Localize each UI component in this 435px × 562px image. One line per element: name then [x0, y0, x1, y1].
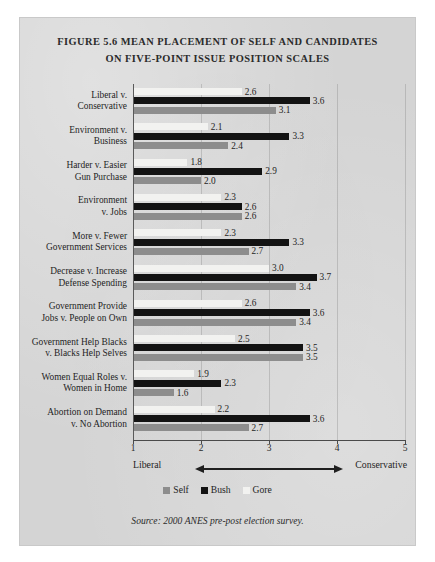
bar-value-label: 3.4: [299, 283, 311, 292]
legend-swatch-bush: [201, 487, 208, 494]
legend-item-gore: Gore: [243, 484, 272, 495]
bar-bush: [134, 168, 262, 175]
bar-group: Harder v. EasierGun Purchase1.82.92.0: [20, 159, 415, 194]
bar-value-label: 3.7: [320, 273, 332, 282]
bar-value-label: 3.3: [292, 132, 304, 141]
bar-value-label: 2.5: [238, 335, 250, 344]
axis-direction-row: Liberal Conservative: [133, 458, 405, 474]
bar-self: [134, 389, 174, 396]
bar-value-label: 2.4: [231, 142, 243, 151]
bar-gore: [134, 335, 235, 342]
bar-bush: [134, 415, 310, 422]
bar-self: [134, 354, 303, 361]
bar-value-label: 2.6: [245, 88, 257, 97]
category-label: Harder v. EasierGun Purchase: [0, 160, 127, 183]
bar-value-label: 2.7: [252, 424, 264, 433]
bar-group: More v. FewerGovernment Services2.33.32.…: [20, 229, 415, 264]
figure-panel: FIGURE 5.6 MEAN PLACEMENT OF SELF AND CA…: [20, 18, 415, 545]
bar-group: Environmentv. Jobs2.32.62.6: [20, 194, 415, 229]
double-headed-arrow-icon: [195, 465, 343, 474]
bar-value-label: 1.9: [197, 370, 209, 379]
bar-value-label: 2.9: [265, 167, 277, 176]
axis-pole-left: Liberal: [133, 459, 161, 470]
bar-gore: [134, 406, 215, 413]
bar-self: [134, 142, 228, 149]
legend-label: Bush: [211, 484, 231, 495]
bar-gore: [134, 370, 194, 377]
bar-gore: [134, 300, 242, 307]
bar-self: [134, 424, 249, 431]
bar-self: [134, 107, 276, 114]
bar-gore: [134, 194, 221, 201]
bar-bush: [134, 274, 317, 281]
bar-gore: [134, 265, 269, 272]
bar-self: [134, 213, 242, 220]
bar-bush: [134, 380, 221, 387]
legend-label: Gore: [253, 484, 272, 495]
bar-group: Decrease v. IncreaseDefense Spending3.03…: [20, 265, 415, 300]
bar-value-label: 1.8: [190, 158, 202, 167]
bar-value-label: 3.1: [279, 106, 291, 115]
x-axis-tick-label: 5: [395, 443, 415, 453]
x-axis-tick-label: 3: [259, 443, 279, 453]
bar-gore: [134, 159, 187, 166]
bar-gore: [134, 123, 208, 130]
x-axis-tick-label: 2: [191, 443, 211, 453]
bar-value-label: 3.6: [313, 309, 325, 318]
bar-gore: [134, 88, 242, 95]
bar-value-label: 3.4: [299, 318, 311, 327]
bar-value-label: 2.0: [204, 177, 216, 186]
bar-group: Environment v.Business2.13.32.4: [20, 123, 415, 158]
category-label: Government ProvideJobs v. People on Own: [0, 301, 127, 324]
x-axis-tick-label: 4: [327, 443, 347, 453]
bar-bush: [134, 239, 289, 246]
bar-self: [134, 248, 249, 255]
bar-value-label: 2.2: [218, 405, 230, 414]
bar-group: Liberal v.Conservative2.63.63.1: [20, 88, 415, 123]
bar-bush: [134, 97, 310, 104]
bar-value-label: 2.1: [211, 123, 223, 132]
legend-swatch-self: [163, 487, 170, 494]
bar-self: [134, 283, 296, 290]
category-label: More v. FewerGovernment Services: [0, 231, 127, 254]
bar-value-label: 2.6: [245, 212, 257, 221]
bar-group: Government ProvideJobs v. People on Own2…: [20, 300, 415, 335]
bar-self: [134, 319, 296, 326]
category-label: Women Equal Roles v.Women in Home: [0, 372, 127, 395]
chart-legend: SelfBushGore: [20, 484, 415, 495]
category-label: Environment v.Business: [0, 125, 127, 148]
legend-item-bush: Bush: [201, 484, 231, 495]
axis-pole-right: Conservative: [355, 459, 407, 470]
legend-label: Self: [173, 484, 188, 495]
bar-self: [134, 177, 201, 184]
bar-value-label: 2.3: [224, 229, 236, 238]
bar-group: Abortion on Demandv. No Abortion2.23.62.…: [20, 406, 415, 441]
category-label: Decrease v. IncreaseDefense Spending: [0, 266, 127, 289]
bar-bush: [134, 203, 242, 210]
source-note: Source: 2000 ANES pre-post election surv…: [20, 515, 415, 526]
x-axis-tick-label: 1: [123, 443, 143, 453]
bar-value-label: 2.3: [224, 193, 236, 202]
legend-item-self: Self: [163, 484, 188, 495]
bar-value-label: 3.5: [306, 353, 318, 362]
bar-bush: [134, 133, 289, 140]
category-label: Abortion on Demandv. No Abortion: [0, 407, 127, 430]
legend-swatch-gore: [243, 487, 250, 494]
bar-value-label: 3.6: [313, 415, 325, 424]
chart-plot-area: Liberal v.Conservative2.63.63.1Environme…: [20, 18, 415, 545]
category-label: Government Help Blacksv. Blacks Help Sel…: [0, 337, 127, 360]
bar-value-label: 3.6: [313, 97, 325, 106]
bar-value-label: 3.0: [272, 264, 284, 273]
bar-value-label: 2.3: [224, 379, 236, 388]
bar-bush: [134, 344, 303, 351]
bar-gore: [134, 229, 221, 236]
bar-bush: [134, 309, 310, 316]
bar-value-label: 2.6: [245, 299, 257, 308]
bar-value-label: 3.3: [292, 238, 304, 247]
category-label: Environmentv. Jobs: [0, 195, 127, 218]
bar-group: Government Help Blacksv. Blacks Help Sel…: [20, 335, 415, 370]
category-label: Liberal v.Conservative: [0, 90, 127, 113]
bar-group: Women Equal Roles v.Women in Home1.92.31…: [20, 370, 415, 405]
bar-value-label: 2.7: [252, 247, 264, 256]
bar-value-label: 1.6: [177, 389, 189, 398]
